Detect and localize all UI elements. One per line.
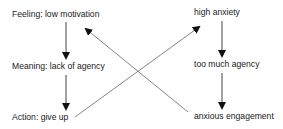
- node-too-much-agency: too much agency: [194, 59, 259, 69]
- node-feeling: Feeling: low motivation: [12, 9, 99, 19]
- node-action: Action: give up: [12, 112, 68, 122]
- node-meaning: Meaning: lack of agency: [12, 61, 105, 71]
- edge-action-to-high-anxiety: [75, 27, 199, 117]
- node-anxious-engagement: anxious engagement: [194, 111, 274, 121]
- node-high-anxiety: high anxiety: [194, 7, 240, 17]
